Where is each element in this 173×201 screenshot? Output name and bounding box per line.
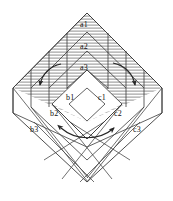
label-a2: a2 xyxy=(80,43,88,51)
label-c2: c2 xyxy=(114,110,122,118)
label-b1: b1 xyxy=(66,94,75,102)
figure-root: a1 a2 a3 b1 c1 b2 c2 b3 c3 xyxy=(0,0,173,201)
diagram-canvas xyxy=(0,0,173,201)
label-a1: a1 xyxy=(80,21,88,29)
label-c1: c1 xyxy=(98,94,106,102)
label-b3: b3 xyxy=(30,126,39,134)
label-a3: a3 xyxy=(80,64,88,72)
label-c3: c3 xyxy=(133,126,141,134)
label-b2: b2 xyxy=(50,110,59,118)
